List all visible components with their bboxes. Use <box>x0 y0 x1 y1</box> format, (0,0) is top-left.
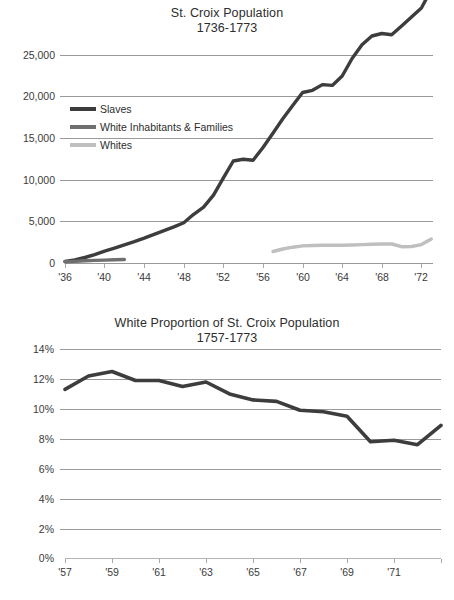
chart-white-proportion: White Proportion of St. Croix Population… <box>0 300 454 600</box>
legend-label-white-inhabitants-families: White Inhabitants & Families <box>100 122 233 133</box>
chart-one-xtick-mark <box>421 264 422 268</box>
chart-two-xtick-mark <box>253 559 254 563</box>
legend-swatch-slaves-icon <box>70 107 96 111</box>
chart-one-xtick-mark <box>263 264 264 268</box>
chart-one-xtick-mark <box>223 264 224 268</box>
chart-two-xtick-57: '57 <box>58 566 72 578</box>
chart-two-xtick-59: '59 <box>105 566 119 578</box>
chart-one-xtick-mark <box>303 264 304 268</box>
legend-label-whites: Whites <box>100 140 132 151</box>
chart-two-xtick-mark <box>65 559 66 563</box>
chart-two-xtick-65: '65 <box>246 566 260 578</box>
chart-two-series-layer <box>0 300 454 600</box>
chart-one-xtick-72: '72 <box>414 271 428 283</box>
chart-two-xtick-mark <box>441 559 442 563</box>
chart-one-xtick-mark <box>342 264 343 268</box>
chart-two-xtick-mark <box>394 559 395 563</box>
chart-st-croix-population: St. Croix Population 1736-1773 25,000 20… <box>0 0 454 300</box>
legend-item-slaves: Slaves <box>70 100 233 118</box>
chart-one-xtick-64: '64 <box>335 271 349 283</box>
chart-one-xtick-52: '52 <box>216 271 230 283</box>
chart-one-xtick-mark <box>382 264 383 268</box>
chart-one-xtick-56: '56 <box>256 271 270 283</box>
legend-label-slaves: Slaves <box>100 104 132 115</box>
series-white-inhabitants-families-line <box>65 260 124 262</box>
legend-swatch-whites-icon <box>70 143 96 147</box>
chart-two-xtick-mark <box>347 559 348 563</box>
chart-one-xtick-mark <box>144 264 145 268</box>
chart-one-xtick-60: '60 <box>296 271 310 283</box>
chart-two-xtick-69: '69 <box>340 566 354 578</box>
chart-one-plot: 25,000 20,000 15,000 10,000 5,000 0 <box>0 0 454 300</box>
series-whites-line <box>273 239 431 252</box>
chart-two-xtick-mark <box>112 559 113 563</box>
chart-one-xtick-mark <box>184 264 185 268</box>
chart-one-xtick-mark <box>65 264 66 268</box>
chart-one-xtick-68: '68 <box>375 271 389 283</box>
legend-item-whites: Whites <box>70 136 233 154</box>
chart-two-xtick-mark <box>300 559 301 563</box>
chart-two-xtick-mark <box>206 559 207 563</box>
chart-one-xtick-44: '44 <box>137 271 151 283</box>
chart-two-xtick-67: '67 <box>293 566 307 578</box>
chart-two-xtick-mark <box>159 559 160 563</box>
legend-item-white-inhabitants-families: White Inhabitants & Families <box>70 118 233 136</box>
chart-one-xtick-40: '40 <box>97 271 111 283</box>
chart-one-xtick-48: '48 <box>177 271 191 283</box>
chart-one-xtick-36: '36 <box>58 271 72 283</box>
chart-one-legend: Slaves White Inhabitants & Families Whit… <box>70 100 233 154</box>
chart-one-xtick-mark <box>104 264 105 268</box>
chart-two-xtick-71: '71 <box>387 566 401 578</box>
chart-two-plot: 14% 12% 10% 8% 6% 4% 2% 0% <box>0 300 454 600</box>
chart-two-xtick-63: '63 <box>199 566 213 578</box>
chart-two-xtick-61: '61 <box>152 566 166 578</box>
legend-swatch-white-inhabitants-families-icon <box>70 125 96 129</box>
series-white-proportion-line <box>65 372 441 445</box>
